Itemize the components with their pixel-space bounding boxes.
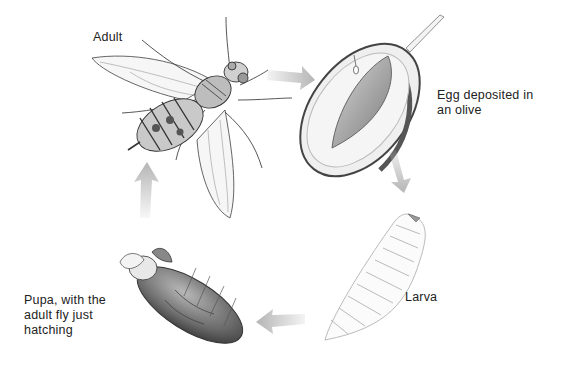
olive-stem <box>406 15 444 52</box>
arrow-adult-to-egg <box>267 66 315 90</box>
pupa-illustration <box>120 248 254 358</box>
fly-wing-right <box>197 110 234 218</box>
label-pupa-line1: Pupa, with the <box>24 293 106 308</box>
label-pupa-line2: adult fly just <box>24 308 106 323</box>
label-egg-line2: an olive <box>437 103 533 118</box>
label-pupa-line3: hatching <box>24 323 106 338</box>
larva-illustration <box>325 214 425 340</box>
label-egg-line1: Egg deposited in <box>437 88 533 103</box>
arrow-larva-to-pupa <box>256 309 305 334</box>
label-egg: Egg deposited in an olive <box>437 88 533 118</box>
label-larva: Larva <box>405 290 437 305</box>
olive-egg-illustration <box>276 15 444 199</box>
arrow-egg-to-larva <box>389 150 411 193</box>
label-adult: Adult <box>93 30 123 45</box>
label-pupa: Pupa, with the adult fly just hatching <box>24 293 106 338</box>
adult-fly-illustration <box>92 17 292 218</box>
olive-egg <box>354 66 359 74</box>
arrow-pupa-to-adult <box>134 162 159 218</box>
